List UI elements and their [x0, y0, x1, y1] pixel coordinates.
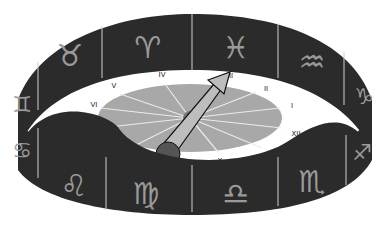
gemini-icon: ♊ — [12, 92, 32, 117]
hour-VI: VI — [91, 101, 98, 109]
hour-I: I — [291, 102, 293, 110]
hour-IV: IV — [159, 71, 166, 79]
aries-icon: ♈ — [135, 30, 162, 65]
pisces-icon: ♓ — [223, 30, 250, 65]
zodiac-sundial-illustration: ♊ ♉ ♈ ♓ ♒ ♑ I II III IV V VI VII VIII X … — [0, 0, 384, 230]
cancer-icon: ♋ — [12, 138, 32, 163]
scorpio-icon: ♏ — [299, 164, 326, 199]
sagittarius-icon: ♐ — [352, 140, 372, 165]
aquarius-icon: ♒ — [299, 44, 326, 79]
taurus-icon: ♉ — [57, 38, 84, 73]
hour-II: II — [264, 85, 268, 93]
libra-icon: ♎ — [223, 176, 250, 211]
virgo-icon: ♍ — [133, 176, 160, 211]
capricorn-icon: ♑ — [354, 84, 374, 109]
leo-icon: ♌ — [61, 168, 88, 203]
hour-V: V — [112, 82, 117, 90]
